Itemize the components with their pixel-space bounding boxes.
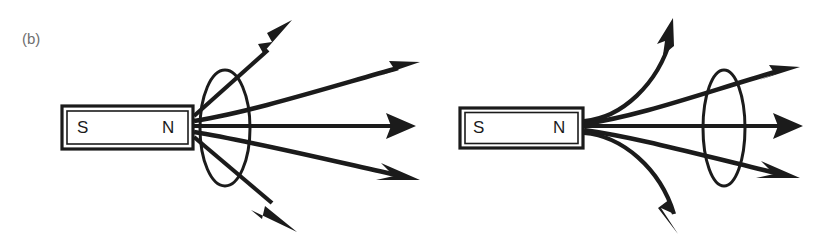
- field-line-down-inner: [584, 130, 776, 173]
- bar-magnet: S N: [62, 106, 193, 149]
- field-line-up-inner: [194, 68, 398, 121]
- figure-root: (b): [0, 0, 829, 246]
- right-field-lines: [584, 18, 803, 234]
- field-line-up-inner-arrowhead: [379, 61, 420, 76]
- left-field-lines: [194, 20, 420, 232]
- right-diagram: S N: [460, 18, 803, 234]
- north-pole-label: N: [553, 118, 565, 137]
- field-line-up-outer-arrowhead: [657, 18, 674, 55]
- left-diagram: S N: [62, 20, 420, 232]
- field-line-up-inner: [584, 72, 775, 124]
- field-line-up-inner-arrowhead: [759, 65, 800, 80]
- magnetic-field-coil-figure: (b): [0, 0, 829, 246]
- north-pole-label: N: [162, 118, 174, 137]
- south-pole-label: S: [473, 118, 484, 137]
- south-pole-label: S: [77, 118, 88, 137]
- field-line-down-outer-arrowhead: [658, 199, 678, 234]
- panel-label: (b): [22, 30, 40, 47]
- bar-magnet: S N: [460, 108, 583, 148]
- field-line-down-outer-arrowhead: [251, 206, 297, 232]
- field-line-down-inner: [194, 132, 396, 175]
- field-line-up-outer-arrowhead: [258, 20, 292, 53]
